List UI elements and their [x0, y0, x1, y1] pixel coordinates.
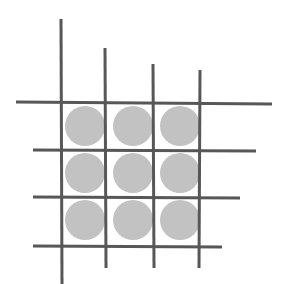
horizontal-line-1 [16, 102, 272, 104]
horizontal-line-3 [33, 197, 240, 198]
horizontal-line-4 [33, 246, 222, 247]
circle-row2-col2 [113, 153, 153, 193]
circle-row3-col1 [65, 200, 105, 240]
circle-row1-col3 [160, 106, 200, 146]
circle-row1-col1 [65, 106, 105, 146]
circle-row2-col3 [160, 153, 200, 193]
vertical-line-2 [105, 48, 106, 268]
grid-with-circles-figure [0, 0, 288, 284]
circle-row2-col1 [65, 153, 105, 193]
circles-group [65, 106, 200, 240]
vertical-line-4 [199, 70, 200, 268]
circle-row1-col2 [113, 106, 153, 146]
figure-canvas [0, 0, 288, 284]
horizontal-line-2 [33, 150, 256, 151]
vertical-line-3 [153, 64, 154, 268]
circle-row3-col2 [113, 200, 153, 240]
circle-row3-col3 [160, 200, 200, 240]
